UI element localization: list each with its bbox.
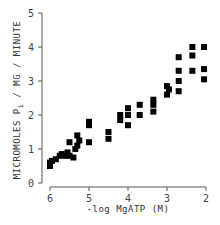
data-point (150, 102, 156, 108)
x-tick-label: 6 (47, 193, 53, 204)
data-point (106, 136, 112, 142)
y-axis-title: MICROMOLES Pi / MG / MINUTE (12, 21, 25, 180)
data-points (47, 44, 207, 169)
data-point (76, 138, 82, 144)
data-point (189, 68, 195, 74)
data-point (117, 112, 123, 118)
data-point (150, 97, 156, 103)
x-tick-label: 2 (203, 193, 209, 204)
y-tick-label: 3 (28, 76, 34, 87)
scatter-chart: 012345 65432 -log MgATP (M) MICROMOLES P… (0, 0, 220, 225)
data-point (201, 44, 207, 50)
data-point (106, 129, 112, 135)
data-point (176, 54, 182, 60)
data-point (137, 102, 143, 108)
data-point (70, 155, 76, 161)
data-point (125, 112, 131, 118)
x-axis: 65432 (47, 187, 209, 204)
data-point (189, 44, 195, 50)
data-point (86, 139, 92, 145)
y-tick-label: 0 (28, 178, 34, 189)
data-point (166, 87, 172, 93)
data-point (67, 139, 73, 145)
data-point (201, 66, 207, 72)
x-tick-label: 4 (125, 193, 131, 204)
y-tick-label: 1 (28, 144, 34, 155)
y-axis: 012345 (28, 8, 42, 189)
data-point (125, 105, 131, 111)
data-point (86, 119, 92, 125)
x-axis-title: -log MgATP (M) (87, 204, 170, 214)
data-point (201, 76, 207, 82)
data-point (137, 112, 143, 118)
data-point (189, 53, 195, 59)
x-tick-label: 3 (164, 193, 170, 204)
data-point (125, 122, 131, 128)
data-point (176, 88, 182, 94)
data-point (176, 78, 182, 84)
y-tick-label: 4 (28, 42, 34, 53)
data-point (176, 68, 182, 74)
y-tick-label: 2 (28, 110, 34, 121)
y-tick-label: 5 (28, 8, 34, 19)
x-tick-label: 5 (86, 193, 92, 204)
data-point (150, 109, 156, 115)
